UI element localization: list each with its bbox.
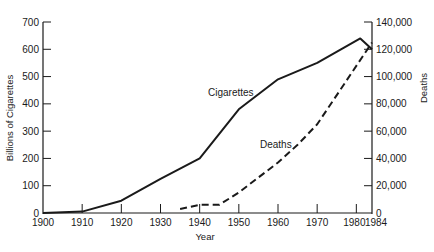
left-y-tick-label: 700	[22, 17, 39, 28]
left-y-tick-label: 400	[22, 98, 39, 109]
axes	[43, 22, 372, 214]
right-y-tick-label: 120,000	[376, 44, 413, 55]
x-tick-label: 1930	[149, 217, 172, 228]
series-deaths	[180, 43, 372, 209]
right-y-tick-label: 80,000	[376, 98, 407, 109]
chart-canvas: 0100200300400500600700020,00040,00060,00…	[0, 0, 434, 252]
labels: 0100200300400500600700020,00040,00060,00…	[4, 17, 429, 243]
right-y-tick-label: 40,000	[376, 153, 407, 164]
x-tick-label: 1940	[189, 217, 212, 228]
cigarettes-deaths-chart: 0100200300400500600700020,00040,00060,00…	[0, 0, 434, 252]
left-y-tick-label: 100	[22, 180, 39, 191]
x-tick-label: 1960	[267, 217, 290, 228]
series-cigarettes	[43, 38, 372, 213]
right-y-tick-label: 60,000	[376, 126, 407, 137]
x-tick-label: 1984	[365, 217, 388, 228]
left-y-tick-label: 200	[22, 153, 39, 164]
x-tick-label: 1950	[228, 217, 251, 228]
left-y-tick-label: 300	[22, 126, 39, 137]
right-y-tick-label: 100,000	[376, 71, 413, 82]
x-axis-title: Year	[195, 231, 214, 242]
left-y-tick-label: 600	[22, 44, 39, 55]
x-tick-label: 1980	[343, 217, 366, 228]
x-tick-label: 1920	[110, 217, 133, 228]
left-y-tick-label: 500	[22, 71, 39, 82]
right-y-tick-label: 20,000	[376, 180, 407, 191]
x-tick-label: 1970	[306, 217, 329, 228]
x-tick-label: 1900	[32, 217, 55, 228]
cigarettes-series-label: Cigarettes	[208, 87, 254, 98]
series-lines	[43, 38, 372, 213]
right-y-tick-label: 140,000	[376, 17, 413, 28]
x-tick-label: 1910	[71, 217, 94, 228]
deaths-series-label: Deaths	[260, 139, 292, 150]
right-y-axis-title: Deaths	[418, 73, 429, 103]
left-y-axis-title: Billions of Cigarettes	[4, 74, 15, 161]
